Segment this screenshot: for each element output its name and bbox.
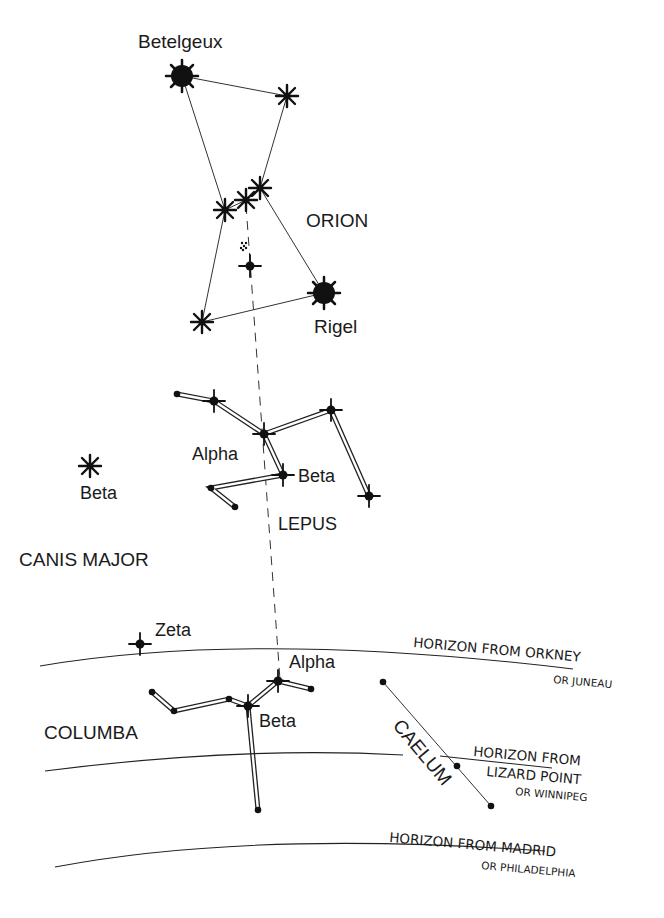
star-icon — [149, 689, 156, 696]
star-icon — [255, 807, 262, 814]
label-columba-beta: Beta — [259, 711, 297, 731]
label-lepus: LEPUS — [278, 514, 337, 534]
label-orion: ORION — [306, 210, 368, 231]
star-saiph-icon — [191, 311, 213, 333]
label-canis-major: CANIS MAJOR — [19, 549, 149, 570]
star-icon — [488, 803, 495, 810]
star-icon — [171, 708, 178, 715]
star-sword-icon — [239, 255, 261, 277]
label-horizon-madrid: HORIZON FROM MADRID — [389, 829, 557, 860]
label-horizon-madrid-sub: OR PHILADELPHIA — [481, 859, 577, 879]
star-chart: Betelgeux ORION Rigel Alpha Beta Beta LE… — [0, 0, 664, 918]
star-icon — [380, 679, 387, 686]
star-belt-icon — [214, 199, 236, 221]
label-horizon-lizard-sub: OR WINNIPEG — [515, 785, 588, 803]
star-bellatrix-icon — [276, 85, 298, 107]
label-horizon-orkney: HORIZON FROM ORKNEY — [413, 634, 582, 665]
star-belt-icon — [235, 189, 257, 211]
star-icon — [226, 696, 233, 703]
star-icon — [358, 485, 380, 507]
star-icon — [232, 504, 239, 511]
star-rigel-icon — [308, 277, 340, 309]
star-canis-major-beta-icon — [79, 455, 101, 477]
label-lepus-alpha: Alpha — [192, 444, 239, 464]
pointer-line — [246, 205, 280, 680]
star-icon — [208, 485, 215, 492]
label-columba-alpha: Alpha — [289, 652, 336, 672]
star-lepus-beta-icon — [272, 464, 294, 486]
label-rigel: Rigel — [314, 316, 357, 337]
label-caelum: CAELUM — [389, 715, 456, 789]
star-icon — [320, 399, 342, 421]
star-icon — [308, 686, 315, 693]
label-canis-major-beta: Beta — [80, 483, 118, 503]
label-lepus-beta: Beta — [298, 466, 336, 486]
label-betelgeux: Betelgeux — [138, 31, 223, 52]
star-icon — [454, 763, 461, 770]
star-icon — [174, 391, 181, 398]
star-betelgeux-icon — [166, 60, 198, 92]
nebula-icon — [240, 242, 247, 251]
star-belt-icon — [249, 177, 271, 199]
label-horizon-orkney-sub: OR JUNEAU — [553, 673, 613, 690]
horizon-lizard-point-a — [45, 753, 403, 771]
label-columba: COLUMBA — [44, 722, 138, 743]
label-zeta: Zeta — [155, 620, 192, 640]
star-zeta-icon — [129, 633, 151, 655]
